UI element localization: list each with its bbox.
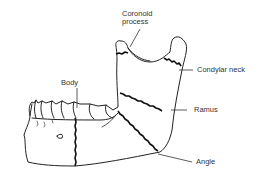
mandible-fracture-diagram: Coronoid process Condylar neck Body Ramu… [0,0,271,180]
label-coronoid-process: Coronoid process [122,10,152,26]
coronoid-leader [130,29,140,47]
ramus-fracture-line [120,93,162,111]
coronoid-label-line2: process [122,18,152,26]
angle-leader [158,154,192,162]
coronoid-fracture-line [116,52,128,54]
mandible-outline [24,37,187,166]
body-fracture-line [75,118,76,166]
angle-fracture-line [118,111,158,151]
condylar-fracture-line [164,58,181,66]
label-body: Body [61,79,78,87]
label-angle: Angle [196,158,215,166]
mental-foramen [57,134,63,138]
label-ramus: Ramus [194,106,218,114]
mandible-illustration [0,0,271,180]
label-condylar-neck: Condylar neck [197,66,245,74]
